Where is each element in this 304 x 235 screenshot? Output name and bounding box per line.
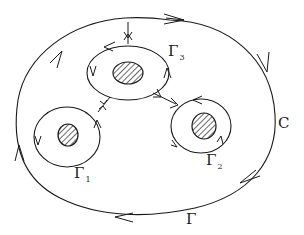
arrow-icon: [257, 52, 269, 72]
arrow-icon: [90, 66, 96, 76]
label-sub: 2: [217, 162, 222, 171]
arrow-icon: [35, 136, 41, 145]
label-gamma-2: Γ2: [206, 153, 223, 171]
label-c: C: [278, 116, 289, 131]
label-gamma-outer: Γ: [186, 212, 196, 227]
label-sub: 1: [85, 175, 90, 184]
label-main: Γ: [168, 42, 178, 60]
arrow-icon: [164, 68, 171, 78]
label-gamma-3: Γ3: [168, 44, 185, 62]
label-main: Γ: [206, 151, 216, 169]
label-main: Γ: [74, 164, 84, 182]
arrow-icon: [104, 42, 115, 51]
arrow-icon: [217, 136, 223, 144]
label-sub: 3: [179, 53, 184, 62]
outer-contour: [15, 14, 275, 222]
arrow-icon: [50, 51, 62, 68]
connector-gamma3-to-gamma1: [98, 97, 110, 112]
loop-gamma-1: [34, 107, 101, 167]
hatched-hole: [113, 62, 143, 84]
contour-diagram: [0, 0, 304, 235]
connector-outer-to-gamma3: [124, 22, 132, 44]
hatched-hole: [58, 124, 78, 146]
hatched-hole: [192, 113, 216, 139]
loop-gamma-2: [171, 96, 231, 153]
arrow-icon: [100, 100, 107, 104]
label-gamma-1: Γ1: [74, 166, 91, 184]
